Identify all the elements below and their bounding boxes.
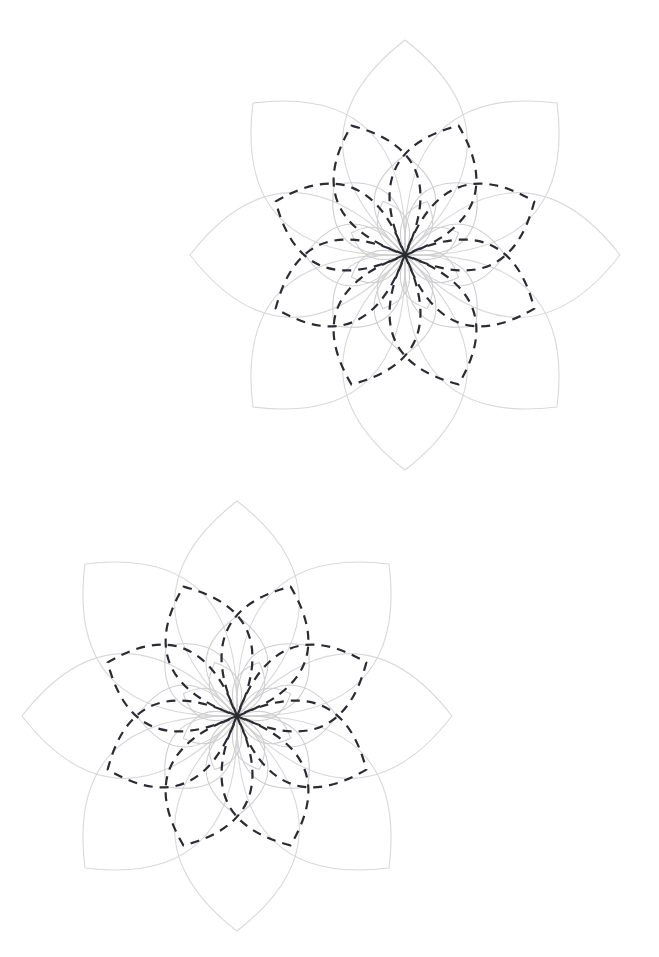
rosette-diagram	[0, 0, 659, 957]
background-rect	[0, 0, 659, 957]
figure-canvas-root	[0, 0, 659, 957]
